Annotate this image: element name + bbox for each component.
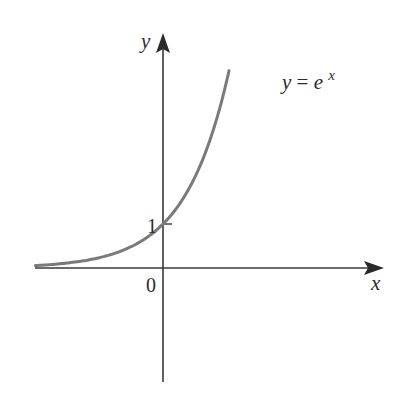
curve-label-y: y (280, 70, 292, 94)
x-axis-label: x (370, 271, 381, 295)
curve-label: y = e x (280, 67, 335, 94)
origin-label: 0 (146, 274, 156, 296)
curve-label-e: e (314, 70, 323, 94)
curve-label-eq: = (297, 70, 314, 94)
curve-label-exp: x (327, 67, 335, 83)
y-intercept-label: 1 (147, 215, 157, 237)
y-axis-label: y (139, 29, 151, 53)
exponential-chart: y x 0 1 y = e x (0, 0, 411, 410)
exponential-curve (35, 71, 229, 266)
